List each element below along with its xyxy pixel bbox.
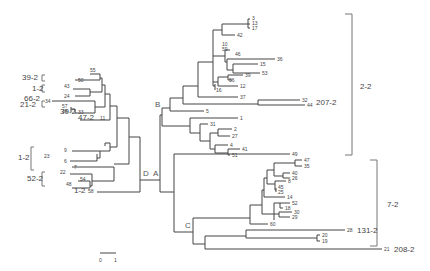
bracket-39-2 — [42, 75, 45, 81]
leaf-label: 43 — [64, 83, 70, 89]
leaf-label: 54 — [80, 176, 86, 182]
group-label-1-2-c: 1-2 — [74, 186, 86, 195]
leaf-label: 56 — [229, 77, 235, 83]
group-brackets — [31, 14, 377, 246]
leaf-label: 1 — [240, 115, 243, 121]
leaf-label: 24 — [64, 93, 70, 99]
leaf-label: 2 — [234, 126, 237, 132]
leaf-label: 49 — [292, 151, 298, 157]
leaf-label: 17 — [252, 25, 258, 31]
leaf-label: 37 — [240, 94, 246, 100]
scale-bar: 0 1 — [99, 253, 117, 263]
group-label-131-2: 131-2 — [357, 226, 378, 235]
leaf-label: 52 — [292, 200, 298, 206]
leaf-label: 31 — [210, 121, 216, 127]
leaf-label: 8 — [288, 178, 291, 184]
leaf-label: 50 — [78, 77, 84, 83]
leaf-label: 34 — [45, 98, 51, 104]
bracket-2-2 — [345, 14, 352, 155]
leaf-label: 5 — [206, 108, 209, 114]
leaf-label: 6 — [64, 158, 67, 164]
leaf-label: 33 — [78, 109, 84, 115]
scale-end-label: 1 — [114, 257, 117, 263]
leaf-label: 7 — [74, 164, 77, 170]
bracket-1-2b — [31, 147, 34, 170]
leaf-label: 42 — [237, 32, 243, 38]
leaf-label: 35 — [304, 163, 310, 169]
leaf-label: 9 — [64, 147, 67, 153]
leaf-label: 21 — [384, 246, 390, 252]
group-label-208-2: 208-2 — [394, 245, 415, 254]
group-label-1-2-b: 1-2 — [18, 153, 30, 162]
leaf-label: 44 — [307, 102, 313, 108]
node-label-d: D — [143, 169, 149, 178]
group-labels: 2-2 7-2 207-2 131-2 208-2 39-2 1-2 66-2 … — [18, 73, 415, 254]
leaf-label: 23 — [44, 153, 50, 159]
node-label-a: A — [153, 169, 159, 178]
leaf-labels-c: 49 47 35 40 26 8 45 25 14 52 18 30 29 60… — [270, 151, 390, 252]
leaf-label: 41 — [242, 146, 248, 152]
leaf-label: 4 — [230, 142, 233, 148]
leaf-label: 58 — [88, 188, 94, 194]
leaf-label: 12 — [240, 83, 246, 89]
leaf-label: 22 — [60, 169, 66, 175]
group-label-52-2: 52-2 — [27, 174, 44, 183]
leaf-label: 19 — [322, 238, 328, 244]
leaf-label: 15 — [260, 61, 266, 67]
leaf-label: 29 — [292, 214, 298, 220]
node-label-b: B — [155, 100, 160, 109]
node-label-c: C — [185, 221, 191, 230]
group-label-207-2: 207-2 — [316, 98, 337, 107]
tree-branches — [52, 19, 382, 249]
leaf-label: 28 — [347, 227, 353, 233]
leaf-label: 51 — [232, 152, 238, 158]
leaf-label: 25 — [278, 189, 284, 195]
leaf-label: 16 — [216, 87, 222, 93]
leaf-label: 36 — [277, 56, 283, 62]
scale-start-label: 0 — [99, 257, 102, 263]
group-label-21-2: 21-2 — [20, 100, 37, 109]
leaf-label: 27 — [232, 133, 238, 139]
group-label-2-2: 2-2 — [360, 82, 372, 91]
leaf-label: 39 — [245, 72, 251, 78]
group-label-1-2-a: 1-2 — [32, 84, 44, 93]
leaf-label: 53 — [262, 70, 268, 76]
leaf-label: 18 — [285, 205, 291, 211]
leaf-label: 38 — [62, 108, 68, 114]
leaf-label: 59 — [222, 46, 228, 52]
group-label-39-2-a: 39-2 — [22, 73, 39, 82]
leaf-label: 60 — [270, 221, 276, 227]
leaf-labels-d: 55 50 43 24 34 57 38 33 11 9 23 6 7 22 5… — [44, 67, 105, 194]
node-labels: B D A C — [143, 100, 191, 230]
phylogenetic-tree: 0 1 B D A C 2-2 7-2 207-2 131-2 208-2 39… — [0, 0, 430, 271]
leaf-label: 48 — [66, 181, 72, 187]
leaf-label: 11 — [100, 115, 105, 121]
group-label-7-2: 7-2 — [387, 200, 399, 209]
leaf-label: 55 — [90, 67, 96, 73]
leaf-label: 26 — [292, 175, 298, 181]
leaf-label: 46 — [235, 51, 241, 57]
